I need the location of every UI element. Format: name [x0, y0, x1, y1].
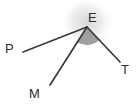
- point-label-p: P: [5, 41, 14, 56]
- geometry-canvas: E P M T: [0, 0, 136, 104]
- point-label-t: T: [121, 62, 129, 77]
- point-label-e: E: [88, 10, 97, 25]
- angle-diagram-figure: E P M T: [0, 0, 136, 104]
- point-label-m: M: [29, 86, 40, 101]
